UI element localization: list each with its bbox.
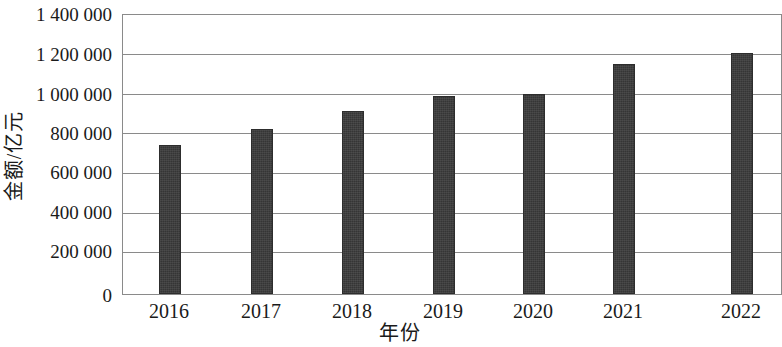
y-axis-tick-label: 200 000	[50, 242, 112, 261]
x-axis-tick-label: 2019	[408, 299, 478, 323]
y-axis-tick-label: 0	[103, 286, 113, 305]
bar-2016	[159, 145, 181, 294]
x-axis-tick-label: 2022	[706, 299, 776, 323]
bar-2021	[613, 64, 635, 294]
bar-2018	[342, 111, 364, 294]
x-axis-tick-label: 2018	[317, 299, 387, 323]
x-axis-tick-label: 2016	[134, 299, 204, 323]
bar-2020	[523, 94, 545, 294]
y-axis-tick-label: 1 000 000	[36, 85, 112, 104]
plot-area	[122, 14, 782, 295]
x-axis-tick-label: 2021	[588, 299, 658, 323]
y-axis-tick-labels: 1 400 000 1 200 000 1 000 000 800 000 60…	[0, 0, 118, 347]
y-axis-tick-label: 800 000	[50, 124, 112, 143]
bar-group	[123, 15, 781, 294]
x-axis-tick-label: 2020	[498, 299, 568, 323]
y-axis-tick-label: 1 200 000	[36, 45, 112, 64]
bar-2019	[433, 96, 455, 294]
x-axis-title: 年份	[0, 322, 774, 344]
y-axis-tick-label: 600 000	[50, 163, 112, 182]
x-axis-tick-label: 2017	[226, 299, 296, 323]
bar-2017	[251, 129, 273, 294]
y-axis-tick-label: 1 400 000	[36, 5, 112, 24]
bar-2022	[731, 53, 753, 294]
y-axis-tick-label: 400 000	[50, 203, 112, 222]
